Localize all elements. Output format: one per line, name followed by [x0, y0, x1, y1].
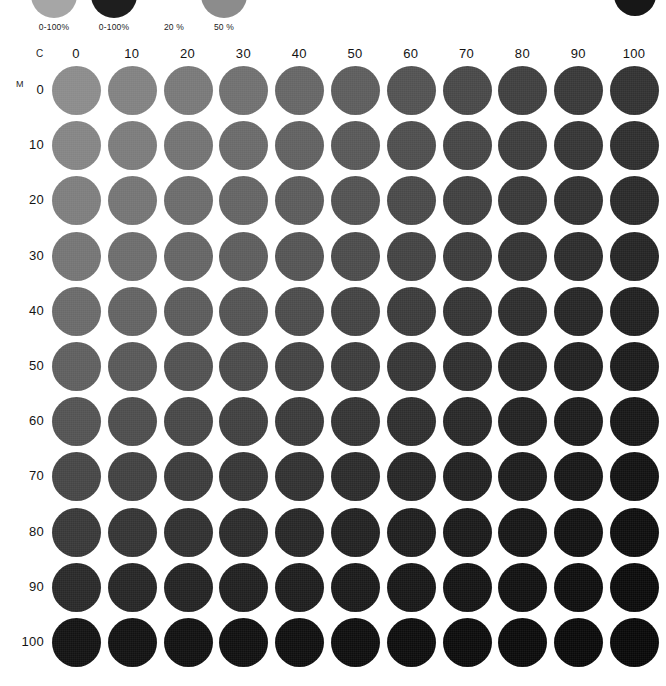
legend-swatch: [31, 0, 77, 18]
colour-swatch: [610, 176, 659, 225]
column-header: 0: [52, 46, 100, 61]
colour-swatch: [331, 397, 380, 446]
colour-swatch: [108, 618, 157, 667]
colour-swatch: [387, 176, 436, 225]
colour-swatch: [443, 176, 492, 225]
colour-swatch: [443, 618, 492, 667]
colour-swatch: [554, 452, 603, 501]
column-header: 40: [275, 46, 323, 61]
column-axis-label: C: [36, 48, 43, 59]
colour-swatch: [554, 66, 603, 115]
colour-swatch: [498, 342, 547, 391]
colour-swatch: [108, 508, 157, 557]
column-header: 100: [610, 46, 658, 61]
colour-swatch: [387, 121, 436, 170]
colour-swatch: [610, 66, 659, 115]
colour-swatch: [164, 287, 213, 336]
colour-swatch: [275, 618, 324, 667]
column-header: 60: [387, 46, 435, 61]
column-header: 50: [331, 46, 379, 61]
colour-swatch: [387, 508, 436, 557]
colour-swatch: [498, 397, 547, 446]
row-header: 80: [0, 524, 44, 539]
colour-swatch: [108, 232, 157, 281]
colour-chart: C M 0102030405060708090100 0102030405060…: [0, 44, 666, 686]
colour-swatch: [554, 618, 603, 667]
row-header: 40: [0, 303, 44, 318]
colour-swatch: [387, 397, 436, 446]
legend-label: 20 %: [146, 22, 202, 32]
colour-swatch: [443, 452, 492, 501]
colour-swatch: [498, 563, 547, 612]
colour-swatch: [554, 232, 603, 281]
colour-swatch: [610, 397, 659, 446]
column-header: 70: [443, 46, 491, 61]
colour-swatch: [275, 121, 324, 170]
legend-label: 0-100%: [26, 22, 82, 32]
colour-swatch: [164, 66, 213, 115]
colour-swatch: [554, 508, 603, 557]
colour-swatch: [219, 397, 268, 446]
colour-swatch: [164, 121, 213, 170]
row-header: 0: [0, 82, 44, 97]
colour-swatch: [52, 66, 101, 115]
colour-swatch: [219, 176, 268, 225]
colour-swatch: [275, 508, 324, 557]
colour-swatch: [610, 508, 659, 557]
row-header: 50: [0, 358, 44, 373]
colour-swatch: [275, 563, 324, 612]
colour-swatch: [108, 66, 157, 115]
colour-swatch: [331, 176, 380, 225]
colour-swatch: [443, 287, 492, 336]
colour-swatch: [52, 232, 101, 281]
column-header: 10: [108, 46, 156, 61]
column-header: 30: [219, 46, 267, 61]
colour-swatch: [331, 121, 380, 170]
colour-swatch: [443, 121, 492, 170]
colour-swatch: [219, 508, 268, 557]
colour-swatch: [219, 563, 268, 612]
colour-swatch: [331, 287, 380, 336]
colour-swatch: [108, 121, 157, 170]
column-header: 90: [554, 46, 602, 61]
colour-swatch: [554, 176, 603, 225]
colour-swatch: [275, 176, 324, 225]
colour-swatch: [219, 342, 268, 391]
colour-swatch: [164, 342, 213, 391]
colour-swatch: [52, 121, 101, 170]
legend-strip: 0-100%0-100%20 %50 %: [0, 0, 666, 40]
colour-swatch: [498, 508, 547, 557]
colour-swatch: [219, 121, 268, 170]
colour-swatch: [498, 176, 547, 225]
colour-swatch: [219, 232, 268, 281]
legend-swatch: [151, 0, 197, 18]
colour-swatch: [219, 618, 268, 667]
legend-item: 0-100%: [86, 0, 142, 46]
colour-swatch: [554, 563, 603, 612]
colour-swatch: [52, 397, 101, 446]
colour-swatch: [387, 287, 436, 336]
legend-item: 50 %: [196, 0, 252, 46]
row-header: 20: [0, 192, 44, 207]
colour-swatch: [610, 121, 659, 170]
colour-swatch: [108, 176, 157, 225]
colour-swatch: [164, 176, 213, 225]
row-header: 10: [0, 137, 44, 152]
colour-swatch: [610, 618, 659, 667]
colour-swatch: [52, 563, 101, 612]
row-header: 90: [0, 579, 44, 594]
legend-item: 0-100%: [26, 0, 82, 46]
legend-label: 0-100%: [86, 22, 142, 32]
colour-swatch: [498, 618, 547, 667]
row-header: 100: [0, 634, 44, 649]
colour-swatch: [108, 287, 157, 336]
colour-swatch: [554, 121, 603, 170]
row-header: 60: [0, 413, 44, 428]
row-header: 70: [0, 468, 44, 483]
colour-swatch: [554, 397, 603, 446]
colour-swatch: [52, 508, 101, 557]
legend-corner-swatch: [614, 0, 656, 16]
colour-swatch: [108, 452, 157, 501]
colour-swatch: [387, 232, 436, 281]
colour-swatch: [108, 397, 157, 446]
